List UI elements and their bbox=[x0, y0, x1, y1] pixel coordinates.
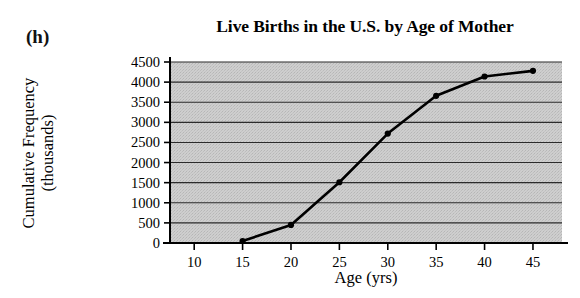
x-tick-label: 15 bbox=[235, 254, 250, 270]
x-axis-ticks: 1015202530354045 bbox=[187, 243, 540, 270]
y-tick-label: 2000 bbox=[131, 155, 160, 171]
y-tick-label: 3500 bbox=[131, 94, 160, 110]
data-point bbox=[288, 222, 294, 228]
plot-background bbox=[170, 62, 562, 243]
x-tick-label: 45 bbox=[526, 254, 541, 270]
y-tick-label: 4000 bbox=[131, 74, 160, 90]
data-point bbox=[433, 93, 439, 99]
x-tick-label: 25 bbox=[332, 254, 347, 270]
y-tick-label: 4500 bbox=[131, 54, 160, 70]
data-point bbox=[336, 179, 342, 185]
y-tick-label: 1500 bbox=[131, 175, 160, 191]
y-tick-label: 2500 bbox=[131, 134, 160, 150]
y-tick-label: 1000 bbox=[131, 195, 160, 211]
data-point bbox=[481, 73, 487, 79]
x-tick-label: 35 bbox=[429, 254, 444, 270]
data-point bbox=[530, 68, 536, 74]
y-tick-label: 3000 bbox=[131, 114, 160, 130]
data-point bbox=[239, 238, 245, 244]
y-tick-label: 0 bbox=[153, 235, 160, 251]
plot-area: 050010001500200025003000350040004500 101… bbox=[131, 54, 568, 270]
chart-plot: 050010001500200025003000350040004500 101… bbox=[0, 0, 580, 298]
x-tick-label: 30 bbox=[381, 254, 396, 270]
x-tick-label: 10 bbox=[187, 254, 202, 270]
y-tick-label: 500 bbox=[138, 215, 160, 231]
data-point bbox=[385, 130, 391, 136]
x-tick-label: 20 bbox=[284, 254, 299, 270]
y-axis-ticks: 050010001500200025003000350040004500 bbox=[131, 54, 170, 251]
figure-panel: (h) Live Births in the U.S. by Age of Mo… bbox=[0, 0, 580, 298]
x-tick-label: 40 bbox=[477, 254, 492, 270]
